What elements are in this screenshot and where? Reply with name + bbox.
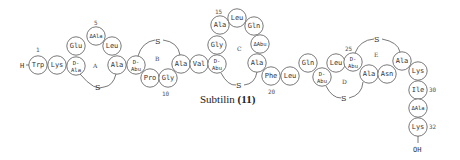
position-number-30: 30 <box>429 86 437 93</box>
residue-2: Lys <box>48 56 66 74</box>
bridge-c-left <box>221 73 236 85</box>
residue-22: Gln <box>299 54 317 72</box>
residue-26: Ala <box>360 65 378 83</box>
bridge-d-right <box>349 82 363 98</box>
bridge-a-right <box>104 74 116 87</box>
residue-label-line: D- <box>214 58 221 64</box>
bridge-c-right <box>244 72 257 85</box>
residue-label: Ala <box>175 60 188 68</box>
residue-label: Lys <box>412 123 425 131</box>
position-number-32: 32 <box>429 123 437 130</box>
residue-label: Ile <box>412 86 425 94</box>
residue-label: ΔAbu <box>253 41 266 47</box>
residue-label: Ala <box>111 61 124 69</box>
residue-4: Glu <box>67 37 85 55</box>
residue-20: Phe <box>262 67 280 85</box>
ring-label-d: D <box>342 78 347 85</box>
position-number-1: 1 <box>36 46 40 53</box>
residue-14: Gly <box>208 36 226 54</box>
residue-chain: TrpLysD-AlaGluΔAlaLeuAlaD-AbuProGlyAlaVa… <box>29 9 427 136</box>
residue-21: Leu <box>281 67 299 85</box>
residue-label-line: Abu <box>131 66 141 72</box>
ring-label-b: B <box>155 55 160 62</box>
residue-32: Lys <box>409 118 427 136</box>
residue-label-line: D- <box>350 56 357 62</box>
ring-label-c: C <box>237 45 242 52</box>
subtilin-structure-diagram: H S S S S S TrpLysD-AlaGluΔAlaLeuAlaD-Ab… <box>0 0 460 160</box>
bridge-e-left <box>355 39 374 53</box>
bridge-b-left <box>138 40 155 56</box>
residue-label-line: Abu <box>348 63 358 69</box>
residue-30: Ile <box>409 81 427 99</box>
bridge-b-right <box>163 40 180 55</box>
residue-31: ΔAla <box>409 99 427 117</box>
residue-9: Pro <box>141 69 159 87</box>
sulfur-a: S <box>95 83 100 92</box>
residue-7: Ala <box>108 56 126 74</box>
residue-label-line: Abu <box>317 78 327 84</box>
residue-label: Asn <box>381 70 394 78</box>
residue-label: Gln <box>302 59 315 67</box>
ring-label-e: E <box>374 51 378 58</box>
residue-label: Gly <box>211 41 224 49</box>
residue-label: Val <box>193 60 206 68</box>
bridge-d-left <box>326 86 341 98</box>
residue-13: D-Abu <box>208 55 226 73</box>
residue-label: Ala <box>251 59 264 67</box>
residue-6: Leu <box>103 37 121 55</box>
sulfur-c: S <box>236 81 241 90</box>
residue-label-line: D- <box>133 59 140 65</box>
residue-label: Pro <box>144 74 157 82</box>
position-number-20: 20 <box>268 88 276 95</box>
n-terminus-label: H <box>20 62 24 70</box>
caption-compound-number: (11) <box>238 93 256 106</box>
residue-23: D-Abu <box>313 68 331 86</box>
residue-8: D-Abu <box>127 56 145 74</box>
residue-29: Lys <box>409 62 427 80</box>
position-number-15: 15 <box>215 8 223 15</box>
residue-label-line: D- <box>319 71 326 77</box>
residue-label: Ala <box>363 70 376 78</box>
residue-28: Ala <box>393 52 411 70</box>
residue-label: Leu <box>231 14 244 22</box>
residue-3: D-Ala <box>67 57 85 75</box>
residue-17: Gln <box>245 17 263 35</box>
residue-label: Leu <box>106 42 119 50</box>
residue-label: Trp <box>32 61 45 69</box>
residue-label: Gly <box>162 74 175 82</box>
c-terminus-label: OH <box>413 146 421 154</box>
position-number-5: 5 <box>94 19 98 26</box>
residue-11: Ala <box>172 55 190 73</box>
residue-24: Leu <box>327 54 345 72</box>
sulfur-b: S <box>155 37 160 46</box>
residue-label: Gln <box>248 22 261 30</box>
residue-label: ΔAla <box>89 33 102 39</box>
caption-name: Subtilin <box>200 93 235 105</box>
residue-label-line: Ala <box>71 67 81 73</box>
residue-label: Leu <box>330 59 343 67</box>
residue-label-line: D- <box>73 60 80 66</box>
residue-label: Lys <box>412 67 425 75</box>
residue-label: ΔAla <box>411 105 424 111</box>
residue-27: Asn <box>378 65 396 83</box>
residue-1: Trp <box>29 56 47 74</box>
residue-5: ΔAla <box>87 27 105 45</box>
sulfur-e: S <box>374 35 379 44</box>
figure-caption: Subtilin (11) <box>200 93 256 106</box>
residue-label: Ala <box>396 57 409 65</box>
residue-12: Val <box>190 55 208 73</box>
residue-label: Lys <box>51 61 64 69</box>
residue-25: D-Abu <box>344 53 362 71</box>
residue-15: Ala <box>211 16 229 34</box>
residue-label-line: Abu <box>212 65 222 71</box>
bridge-e-right <box>382 39 400 52</box>
residue-18: ΔAbu <box>251 35 269 53</box>
residue-label: Phe <box>265 72 278 80</box>
position-number-25: 25 <box>345 45 353 52</box>
ring-label-a: A <box>92 62 98 69</box>
sulfur-d: S <box>341 94 346 103</box>
residue-10: Gly <box>159 69 177 87</box>
residue-16: Leu <box>228 9 246 27</box>
residue-label: Ala <box>214 21 227 29</box>
residue-19: Ala <box>248 54 266 72</box>
